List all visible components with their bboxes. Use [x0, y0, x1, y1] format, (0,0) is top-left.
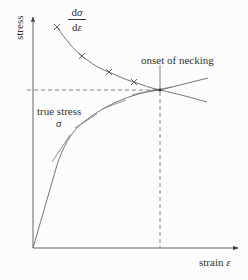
necking-point: [158, 88, 161, 91]
true-stress-symbol: σ: [56, 118, 61, 129]
axes: [33, 17, 238, 248]
x-marker: [131, 79, 137, 85]
true-stress-curve: [33, 78, 208, 248]
x-axis-label-symbol: ε: [226, 256, 230, 268]
fraction-bar: [68, 19, 86, 20]
x-axis-label-text: strain: [199, 256, 223, 268]
x-markers: [54, 24, 137, 85]
stress-strain-diagram: stress strain ε onset of necking true st…: [0, 0, 248, 280]
derivative-label: dσ dε: [68, 6, 86, 33]
necking-annotation: onset of necking: [141, 55, 214, 66]
x-axis-label: strain ε: [199, 257, 231, 268]
tangent-segment: [102, 100, 126, 109]
tangent-segment: [52, 135, 70, 162]
reference-lines: [27, 65, 160, 248]
diagram-canvas: [0, 0, 248, 280]
derivative-numerator: dσ: [68, 6, 86, 18]
derivative-denominator: dε: [68, 21, 86, 33]
x-marker: [54, 24, 60, 30]
numerator-sigma: σ: [77, 6, 82, 18]
x-marker: [79, 53, 85, 59]
denominator-epsilon: ε: [78, 21, 82, 33]
x-marker: [106, 69, 112, 75]
y-axis-label: stress: [14, 16, 25, 40]
true-stress-label: true stress: [37, 106, 81, 117]
